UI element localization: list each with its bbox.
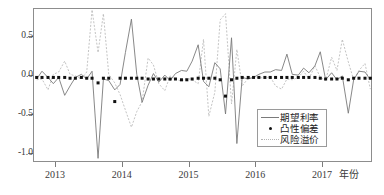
data-point (119, 77, 122, 80)
data-point (280, 76, 283, 79)
data-point (257, 76, 260, 79)
data-point (263, 76, 266, 79)
legend-solid-line-icon (260, 112, 280, 123)
data-point (141, 77, 144, 80)
legend-label-convexity-bias: 凸性偏差 (280, 123, 319, 134)
data-point (180, 78, 183, 81)
x-tick-label-0: 2013 (33, 169, 77, 180)
data-point (330, 78, 333, 81)
data-point (107, 77, 110, 80)
data-point (52, 76, 55, 79)
data-point (191, 78, 194, 81)
data-point (341, 77, 344, 80)
data-point (357, 77, 360, 80)
data-point (297, 76, 300, 79)
data-point (80, 76, 83, 79)
data-point (247, 76, 250, 79)
data-point (152, 78, 155, 81)
data-point (352, 77, 355, 80)
legend-label-expected-rate: 期望利率 (280, 112, 319, 123)
data-point (74, 77, 77, 80)
data-point (302, 76, 305, 79)
data-point (347, 78, 350, 81)
y-tick-label-1: 0.0 (3, 70, 33, 80)
data-point (369, 77, 372, 80)
x-tick-label-2: 2015 (167, 169, 211, 180)
data-point (307, 76, 310, 79)
legend-item-expected-rate: 期望利率 (260, 112, 324, 123)
data-point (163, 78, 166, 81)
y-tick-label-2: -0.5 (3, 109, 33, 119)
data-point (274, 76, 277, 79)
data-point (291, 76, 294, 79)
data-point (230, 78, 233, 81)
data-point (97, 81, 100, 84)
x-tick-label-1: 2014 (100, 169, 144, 180)
x-tick-label-4: 2017 (300, 169, 344, 180)
y-axis: 0.50.0-0.5-1.0 (0, 0, 33, 170)
x-tick-mark (122, 162, 123, 167)
data-point (363, 77, 366, 80)
data-point (102, 77, 105, 80)
data-point (147, 78, 150, 81)
data-point (85, 77, 88, 80)
x-tick-mark (189, 162, 190, 167)
legend: 期望利率 凸性偏差 风险溢价 (257, 109, 327, 147)
data-point (269, 76, 272, 79)
x-tick-mark (322, 162, 323, 167)
data-point (185, 78, 188, 81)
data-point (41, 76, 44, 79)
data-point (69, 77, 72, 80)
legend-dashed-line-icon (260, 134, 280, 145)
data-point (235, 77, 238, 80)
data-point (202, 77, 205, 80)
x-tick-label-3: 2016 (233, 169, 277, 180)
data-point (124, 77, 127, 80)
legend-label-risk-premium: 风险溢价 (280, 134, 319, 145)
data-point (91, 77, 94, 80)
data-point (207, 77, 210, 80)
x-tick-mark (55, 162, 56, 167)
legend-item-convexity-bias: 凸性偏差 (260, 123, 324, 134)
data-point (313, 76, 316, 79)
data-point (219, 78, 222, 81)
figure-caption (0, 184, 384, 194)
data-point (319, 77, 322, 80)
data-point (113, 100, 116, 103)
data-point (324, 78, 327, 81)
legend-item-risk-premium: 风险溢价 (260, 134, 324, 145)
data-point (285, 76, 288, 79)
data-point (213, 77, 216, 80)
data-point (135, 77, 138, 80)
data-point (224, 95, 227, 98)
data-point (241, 76, 244, 79)
y-tick-label-0: 0.5 (3, 31, 33, 41)
figure: 0.50.0-0.5-1.0 年份 20132014201520162017 期… (0, 0, 384, 195)
data-point (130, 77, 133, 80)
data-point (57, 76, 60, 79)
data-point (35, 76, 38, 79)
data-point (174, 78, 177, 81)
data-point (197, 77, 200, 80)
data-point (335, 78, 338, 81)
legend-dot-marker-icon (260, 123, 280, 134)
data-point (157, 78, 160, 81)
data-point (252, 76, 255, 79)
x-tick-mark (255, 162, 256, 167)
data-point (47, 76, 50, 79)
data-point (169, 78, 172, 81)
data-point (63, 76, 66, 79)
y-tick-label-3: -1.0 (3, 148, 33, 158)
